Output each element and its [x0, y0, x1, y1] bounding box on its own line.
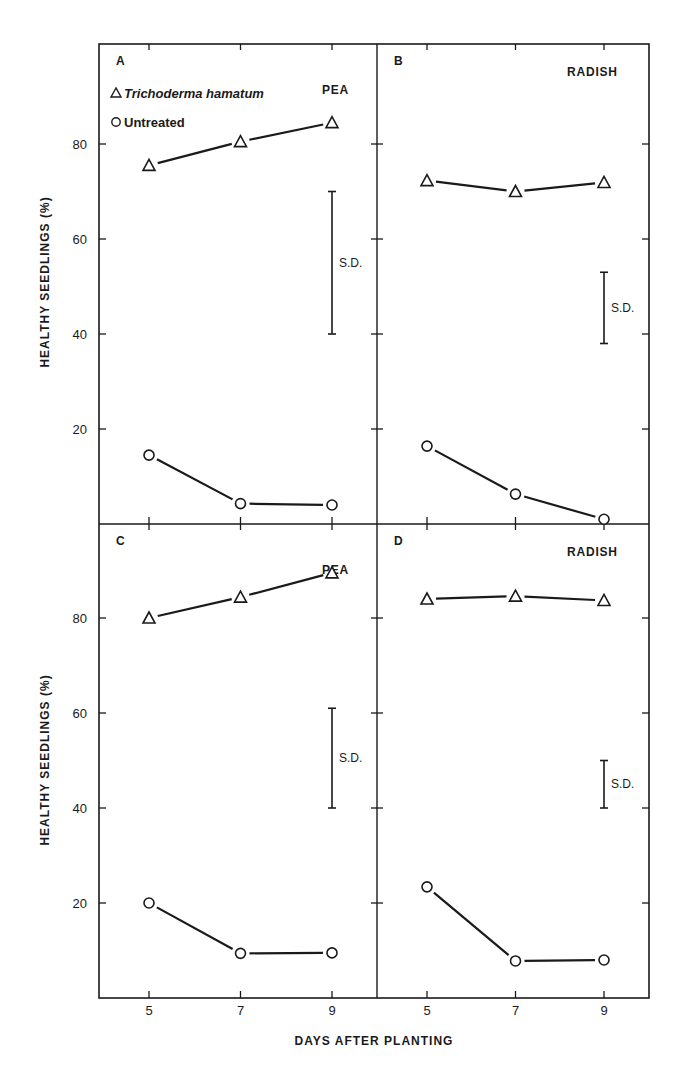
crop-label: RADISH	[567, 65, 618, 79]
y-tick-label: 80	[73, 611, 87, 626]
legend: Trichoderma hamatumUntreated	[111, 86, 264, 130]
legend-circle-icon	[112, 118, 120, 126]
series-line	[524, 183, 595, 190]
series-line	[158, 144, 232, 163]
circle-marker	[422, 441, 432, 451]
sd-label: S.D.	[611, 777, 634, 791]
triangle-marker	[143, 612, 155, 623]
figure-canvas: 20406080APEAS.D.Trichoderma hamatumUntre…	[0, 0, 681, 1076]
y-tick-label: 40	[73, 327, 87, 342]
series-line	[436, 182, 507, 191]
sd-label: S.D.	[339, 256, 362, 270]
triangle-marker	[143, 159, 155, 170]
triangle-marker	[421, 175, 433, 186]
circle-marker	[327, 500, 337, 510]
crop-label: PEA	[322, 83, 349, 97]
triangle-marker	[326, 117, 338, 128]
circle-marker	[599, 955, 609, 965]
series-line	[249, 575, 323, 595]
panel-letter: C	[116, 534, 125, 548]
triangle-marker	[598, 594, 610, 605]
series-line	[157, 907, 233, 949]
sd-label: S.D.	[611, 301, 634, 315]
circle-marker	[327, 948, 337, 958]
triangle-marker	[598, 176, 610, 187]
y-tick-label: 80	[73, 137, 87, 152]
series-line	[249, 504, 323, 505]
x-tick-label: 9	[328, 1003, 335, 1018]
series-line	[524, 497, 595, 517]
x-tick-label: 7	[237, 1003, 244, 1018]
legend-label-untreated: Untreated	[124, 115, 185, 130]
circle-marker	[236, 499, 246, 509]
legend-label-trichoderma: Trichoderma hamatum	[124, 86, 264, 101]
x-tick-label: 5	[423, 1003, 430, 1018]
panel-a: 20406080APEAS.D.Trichoderma hamatumUntre…	[73, 44, 383, 524]
x-tick-label: 9	[600, 1003, 607, 1018]
series-line	[524, 597, 595, 600]
y-tick-label: 60	[73, 232, 87, 247]
circle-marker	[422, 882, 432, 892]
x-axis-label: DAYS AFTER PLANTING	[295, 1034, 454, 1048]
y-tick-label: 40	[73, 801, 87, 816]
x-tick-label: 7	[512, 1003, 519, 1018]
y-tick-label: 20	[73, 422, 87, 437]
crop-label: RADISH	[567, 545, 618, 559]
triangle-marker	[510, 590, 522, 601]
panel-letter: A	[116, 54, 125, 68]
circle-marker	[144, 898, 154, 908]
y-axis-label-bottom: HEALTHY SEEDLINGS (%)	[38, 674, 52, 845]
legend-triangle-icon	[111, 88, 121, 97]
x-tick-label: 5	[145, 1003, 152, 1018]
series-line	[524, 960, 595, 961]
circle-marker	[236, 948, 246, 958]
triangle-marker	[235, 136, 247, 147]
panels: 20406080APEAS.D.Trichoderma hamatumUntre…	[73, 44, 649, 1018]
triangle-marker	[235, 591, 247, 602]
series-line	[436, 596, 507, 598]
sd-label: S.D.	[339, 751, 362, 765]
circle-marker	[511, 956, 521, 966]
series-line	[434, 893, 509, 956]
series-line	[249, 124, 323, 139]
series-line	[158, 599, 232, 616]
panel-b: BRADISHS.D.	[394, 44, 649, 524]
triangle-marker	[421, 593, 433, 604]
panel-letter: D	[394, 534, 403, 548]
circle-marker	[511, 489, 521, 499]
y-axis-label-top: HEALTHY SEEDLINGS (%)	[38, 196, 52, 367]
panel-d: 579DRADISHS.D.	[394, 524, 649, 1018]
panel-c: 57920406080CPEAS.D.	[73, 524, 383, 1018]
y-tick-label: 20	[73, 896, 87, 911]
y-tick-label: 60	[73, 706, 87, 721]
circle-marker	[599, 514, 609, 524]
triangle-marker	[510, 186, 522, 197]
series-line	[157, 459, 233, 499]
panel-letter: B	[394, 54, 403, 68]
series-line	[435, 450, 508, 489]
circle-marker	[144, 450, 154, 460]
